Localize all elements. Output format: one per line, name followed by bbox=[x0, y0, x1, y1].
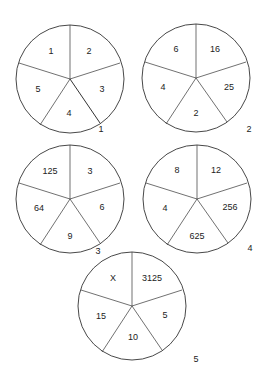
segment-top-left: 125 bbox=[42, 166, 57, 176]
segment-bottom: 4 bbox=[66, 108, 71, 118]
circle-4: 8 12 256 625 4 4 bbox=[143, 145, 253, 253]
segment-right: 256 bbox=[222, 202, 237, 212]
circle-2: 6 16 25 2 4 2 bbox=[142, 24, 252, 134]
segment-bottom: 10 bbox=[128, 332, 138, 342]
segment-top-right: 3125 bbox=[142, 273, 162, 283]
circle-number: 1 bbox=[98, 124, 103, 134]
segment-left: 4 bbox=[162, 203, 167, 213]
segment-bottom: 9 bbox=[67, 231, 72, 241]
segment-left: 4 bbox=[160, 82, 165, 92]
segment-right: 3 bbox=[99, 84, 104, 94]
segment-left: 15 bbox=[96, 311, 106, 321]
segment-left: 5 bbox=[35, 84, 40, 94]
segment-top-left: X bbox=[110, 273, 116, 283]
circle-number: 2 bbox=[246, 124, 251, 134]
circle-5: X 3125 5 10 15 5 bbox=[78, 252, 199, 364]
segment-top-left: 8 bbox=[174, 165, 179, 175]
segment-right: 6 bbox=[99, 202, 104, 212]
puzzle-diagram: 1 2 3 4 5 1 6 16 25 2 4 2 125 3 6 9 64 3 bbox=[0, 0, 271, 390]
circle-number: 4 bbox=[247, 243, 252, 253]
segment-bottom: 625 bbox=[189, 231, 204, 241]
circle-1: 1 2 3 4 5 1 bbox=[16, 25, 124, 134]
segment-bottom: 2 bbox=[193, 108, 198, 118]
segment-top-right: 2 bbox=[86, 46, 91, 56]
circle-number: 3 bbox=[95, 246, 100, 256]
segment-right: 25 bbox=[224, 82, 234, 92]
segment-top-right: 12 bbox=[211, 165, 221, 175]
segment-top-right: 16 bbox=[210, 44, 220, 54]
segment-top-right: 3 bbox=[87, 166, 92, 176]
segment-right: 5 bbox=[162, 310, 167, 320]
circle-3: 125 3 6 9 64 3 bbox=[16, 145, 124, 256]
segment-top-left: 6 bbox=[173, 44, 178, 54]
segment-top-left: 1 bbox=[48, 46, 53, 56]
segment-left: 64 bbox=[34, 203, 44, 213]
circle-number: 5 bbox=[193, 354, 198, 364]
